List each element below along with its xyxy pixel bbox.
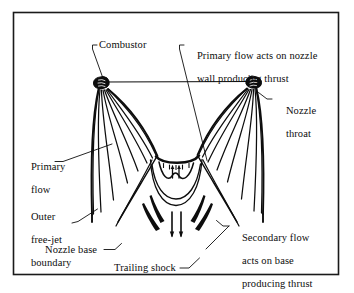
plume-inner-envelope-right	[198, 89, 248, 156]
label-line: acts on base	[242, 255, 294, 266]
label-line: producing thrust	[242, 278, 313, 289]
label-line: free-jet	[31, 234, 62, 245]
label-nozzle-base: Nozzle base	[45, 244, 97, 256]
label-line: Outer	[31, 211, 55, 222]
outer-free-jet-boundary-left	[91, 89, 98, 215]
label-line: flow	[31, 184, 51, 195]
label-primary-wall-thrust: Primary flow acts on nozzle wall produci…	[186, 38, 317, 96]
exhaust-arrows-down	[170, 212, 183, 237]
secondary-flow-up-arrows	[164, 164, 190, 170]
leader-secondary-base-1	[217, 221, 230, 227]
label-combustor: Combustor	[99, 39, 147, 51]
shear-layer-left-2	[116, 160, 152, 226]
combustor-block-left	[94, 77, 110, 89]
primary-streamlines-left	[93, 89, 156, 214]
recirculation-curve-upper	[159, 162, 194, 178]
leader-trailing-shock	[180, 258, 200, 268]
leader-secondary-base-2	[206, 226, 229, 249]
label-secondary-base-thrust: Secondary flow acts on base producing th…	[231, 220, 313, 293]
nozzle-base-arc	[156, 156, 199, 163]
outer-free-jet-boundary-right	[257, 89, 264, 215]
trailing-shock-wedges	[142, 195, 213, 231]
label-line: Secondary flow	[242, 232, 310, 243]
label-line: wall producing thrust	[197, 73, 289, 84]
label-line: throat	[286, 128, 311, 139]
label-outer-free-jet-boundary: Outer free-jet boundary	[20, 199, 71, 280]
label-trailing-shock: Trailing shock	[114, 262, 176, 274]
primary-streamlines-right	[199, 89, 262, 214]
leader-nozzle-base	[104, 244, 122, 250]
label-nozzle-throat: Nozzle throat	[275, 93, 316, 151]
label-primary-flow: Primary flow	[20, 149, 65, 207]
label-line: boundary	[31, 257, 71, 268]
label-line: Primary flow acts on nozzle	[197, 50, 318, 61]
label-line: Primary	[31, 161, 66, 172]
label-line: Nozzle	[286, 105, 316, 116]
shear-layer-right-2	[203, 160, 239, 226]
plume-inner-envelope-left	[108, 89, 158, 156]
